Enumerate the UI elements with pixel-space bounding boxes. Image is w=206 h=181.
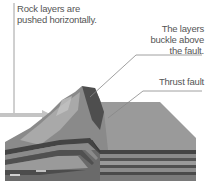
block-top-surface xyxy=(100,102,196,150)
thrust-fault-label: Thrust fault xyxy=(159,76,204,87)
buckle-label: The layers buckle above the fault. xyxy=(150,23,204,56)
buckle-label-line-1: The layers xyxy=(150,23,204,34)
push-label-line-2: pushed horizontally. xyxy=(17,14,97,25)
push-label: Rock layers are pushed horizontally. xyxy=(17,3,97,25)
thrust-fault-label-text: Thrust fault xyxy=(159,76,204,87)
push-label-line-1: Rock layers are xyxy=(17,3,97,14)
buckle-label-line-2: buckle above xyxy=(150,34,204,45)
buckle-label-line-3: the fault. xyxy=(150,45,204,56)
